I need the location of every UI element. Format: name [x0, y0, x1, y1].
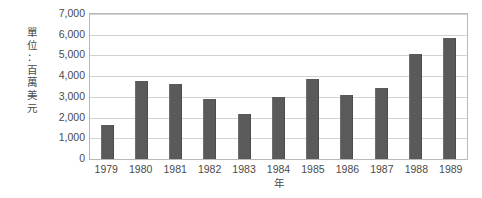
bar[interactable]: [375, 88, 388, 159]
x-tick-label: 1984: [261, 163, 295, 177]
y-axis-title-char: 萬: [27, 76, 37, 89]
bar[interactable]: [169, 84, 182, 159]
y-axis-title-char: 美: [27, 89, 37, 102]
bar[interactable]: [238, 114, 251, 159]
y-tick-label: 7,000: [45, 8, 85, 19]
bars-layer: [90, 14, 467, 159]
x-tick-label: 1980: [123, 163, 157, 177]
y-tick-label: 3,000: [45, 90, 85, 101]
x-tick-label: 1988: [399, 163, 433, 177]
x-tick-label: 1981: [158, 163, 192, 177]
x-tick-label: 1987: [365, 163, 399, 177]
y-tick-label: 5,000: [45, 49, 85, 60]
y-tick-label: 0: [45, 153, 85, 164]
bar-slot: [296, 14, 330, 159]
y-axis-title-char: 元: [27, 102, 37, 115]
bar-slot: [364, 14, 398, 159]
bar-slot: [124, 14, 158, 159]
bar-slot: [159, 14, 193, 159]
plot-area: [89, 13, 468, 160]
bar[interactable]: [203, 99, 216, 159]
x-axis-title: 年: [89, 177, 468, 190]
bar-slot: [398, 14, 432, 159]
x-tick-label: 1986: [330, 163, 364, 177]
y-axis-title: 單 位 ： 百 萬 美 元: [24, 26, 40, 156]
y-tick-label: 6,000: [45, 28, 85, 39]
y-axis-title-char: 位: [27, 39, 37, 52]
x-tick-label: 1989: [434, 163, 468, 177]
y-axis-title-char: 百: [27, 64, 37, 77]
bar-slot: [227, 14, 261, 159]
bar-chart-figure: 單 位 ： 百 萬 美 元 7,000 6,000 5,000 4,000 3,…: [0, 0, 482, 198]
x-tick-label: 1983: [227, 163, 261, 177]
y-axis-title-char: 單: [27, 26, 37, 39]
x-tick-label: 1982: [192, 163, 226, 177]
bar-slot: [193, 14, 227, 159]
x-tick-label: 1979: [89, 163, 123, 177]
bar-slot: [330, 14, 364, 159]
y-tick-label: 4,000: [45, 70, 85, 81]
bar[interactable]: [101, 125, 114, 159]
y-axis-title-char: ：: [27, 51, 37, 64]
bar[interactable]: [306, 79, 319, 159]
bar[interactable]: [272, 97, 285, 159]
y-tick-label: 1,000: [45, 132, 85, 143]
x-axis-tick-labels: 1979198019811982198319841985198619871988…: [89, 163, 468, 177]
y-tick-label: 2,000: [45, 111, 85, 122]
bar[interactable]: [340, 95, 353, 159]
bar[interactable]: [443, 38, 456, 159]
bar-slot: [433, 14, 467, 159]
bar-slot: [90, 14, 124, 159]
bar-slot: [261, 14, 295, 159]
bar[interactable]: [135, 81, 148, 159]
x-tick-label: 1985: [296, 163, 330, 177]
y-axis-tick-labels: 7,000 6,000 5,000 4,000 3,000 2,000 1,00…: [48, 8, 88, 166]
bar[interactable]: [409, 54, 422, 159]
